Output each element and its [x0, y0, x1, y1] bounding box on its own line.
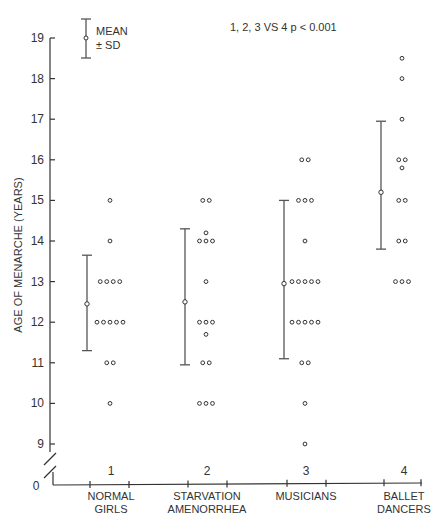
y-tick-label: 17 [31, 112, 45, 126]
data-point [403, 158, 407, 162]
data-point [297, 320, 301, 324]
data-point [211, 320, 215, 324]
data-point [297, 199, 301, 203]
data-point [316, 280, 320, 284]
data-point [204, 239, 208, 243]
data-point [204, 320, 208, 324]
y-tick-label: 18 [31, 72, 45, 86]
category-index: 4 [401, 464, 408, 478]
data-point [211, 402, 215, 406]
data-point [111, 361, 115, 365]
data-point [204, 231, 208, 235]
mean-marker [85, 302, 89, 306]
data-point [306, 361, 310, 365]
y-tick-label: 14 [31, 234, 45, 248]
data-point [303, 280, 307, 284]
category-index: 2 [204, 464, 211, 478]
data-point [108, 239, 112, 243]
mean-marker [183, 300, 187, 304]
data-point [407, 280, 411, 284]
mean-marker [282, 281, 286, 285]
data-point [201, 361, 205, 365]
group-4 [376, 56, 410, 283]
legend: MEAN ± SD [81, 19, 128, 58]
data-point [297, 280, 301, 284]
category-index: 3 [303, 464, 310, 478]
y-tick-label: 16 [31, 153, 45, 167]
category-label: NORMAL [87, 490, 134, 502]
y-tick-label: 13 [31, 275, 45, 289]
data-point [108, 320, 112, 324]
legend-mean-label: MEAN [96, 25, 128, 37]
legend-sd-label: ± SD [96, 39, 120, 51]
y-tick-label: 19 [31, 31, 45, 45]
data-point [303, 320, 307, 324]
group-2 [180, 199, 214, 406]
data-point [108, 402, 112, 406]
data-groups [82, 56, 410, 446]
data-point [397, 158, 401, 162]
data-point [108, 199, 112, 203]
data-point [403, 199, 407, 203]
data-point [111, 280, 115, 284]
y-ticks: 191817161514131211109 [31, 31, 55, 451]
data-point [105, 280, 109, 284]
data-point [300, 158, 304, 162]
data-point [198, 239, 202, 243]
data-point [310, 320, 314, 324]
data-point [303, 402, 307, 406]
data-point [211, 239, 215, 243]
y-tick-label: 15 [31, 193, 45, 207]
data-point [397, 199, 401, 203]
data-point [204, 402, 208, 406]
data-point [290, 280, 294, 284]
category-label: MUSICIANS [275, 490, 336, 502]
data-point [400, 56, 404, 60]
group-3 [279, 158, 320, 446]
category-label-line2: GIRLS [94, 503, 127, 515]
data-point [316, 320, 320, 324]
data-point [207, 199, 211, 203]
data-point [204, 280, 208, 284]
y-origin-label: 0 [33, 479, 40, 493]
chart: AGE OF MENARCHE (YEARS) 1, 2, 3 VS 4 p <… [0, 0, 436, 522]
y-axis-label: AGE OF MENARCHE (YEARS) [12, 177, 24, 332]
data-point [207, 361, 211, 365]
data-point [394, 280, 398, 284]
category-label-line2: AMENORRHEA [168, 503, 248, 515]
y-tick-label: 12 [31, 315, 45, 329]
data-point [105, 361, 109, 365]
data-point [303, 199, 307, 203]
x-category-labels: 1NORMALGIRLS2STARVATIONAMENORRHEA3MUSICI… [87, 464, 430, 515]
data-point [400, 117, 404, 121]
data-point [303, 442, 307, 446]
data-point [400, 280, 404, 284]
category-label: STARVATION [173, 490, 241, 502]
data-point [115, 320, 119, 324]
data-point [198, 320, 202, 324]
data-point [102, 320, 106, 324]
data-point [118, 280, 122, 284]
category-label: BALLET [384, 490, 425, 502]
data-point [403, 239, 407, 243]
data-point [303, 239, 307, 243]
significance-annotation: 1, 2, 3 VS 4 p < 0.001 [230, 21, 337, 33]
data-point [397, 239, 401, 243]
data-point [306, 158, 310, 162]
data-point [121, 320, 125, 324]
data-point [95, 320, 99, 324]
y-tick-label: 11 [32, 356, 45, 370]
data-point [290, 320, 294, 324]
y-axis: 191817161514131211109 0 [31, 31, 56, 493]
group-1 [82, 199, 125, 406]
category-label-line2: DANCERS [377, 503, 431, 515]
category-index: 1 [108, 464, 115, 478]
data-point [400, 166, 404, 170]
data-point [300, 361, 304, 365]
data-point [204, 332, 208, 336]
data-point [198, 402, 202, 406]
data-point [98, 280, 102, 284]
data-point [310, 199, 314, 203]
mean-marker [379, 190, 383, 194]
y-tick-label: 9 [37, 437, 44, 451]
